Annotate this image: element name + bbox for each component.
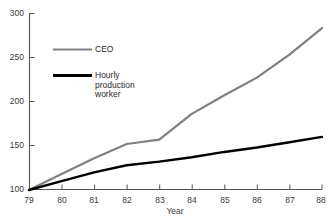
data-line-hourly-production-worker <box>29 137 322 190</box>
data-line-ceo <box>29 28 322 190</box>
y-axis-ticks <box>30 14 35 190</box>
axis-lines <box>29 13 322 190</box>
chart-container: 300 250 200 150 100 79 80 81 82 83 84 85… <box>0 0 331 219</box>
chart-plot-area <box>0 0 331 219</box>
x-axis-ticks <box>30 185 323 190</box>
